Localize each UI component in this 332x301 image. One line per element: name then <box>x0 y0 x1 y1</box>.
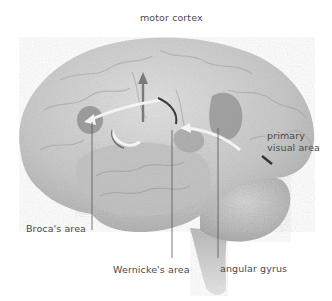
label-brocas-area: Broca's area <box>26 223 86 234</box>
temporal-lobe <box>76 143 211 217</box>
label-primary-visual-line1: primary <box>267 130 305 141</box>
label-motor-cortex: motor cortex <box>140 12 203 23</box>
label-primary-visual-line2: visual area <box>267 142 320 153</box>
brain-diagram: motor cortex primary visual area Broca's… <box>0 0 332 301</box>
label-angular-gyrus: angular gyrus <box>220 263 287 274</box>
label-wernickes-area: Wernicke's area <box>113 264 190 275</box>
